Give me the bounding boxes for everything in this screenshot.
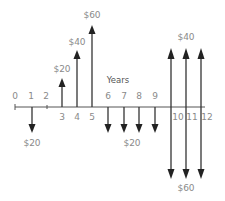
arrow-down-icon	[136, 124, 143, 133]
cash-flow-arrow-year-7-down	[121, 107, 128, 133]
cash-flow-arrow-year-3-up	[59, 78, 66, 107]
year-label-10: 10	[172, 112, 184, 122]
arrow-up-icon	[74, 50, 81, 59]
arrow-down-icon	[198, 169, 205, 179]
arrow-down-icon	[168, 169, 175, 179]
cash-flow-arrow-year-5-up	[89, 25, 96, 107]
amount-label-year-5: $60	[83, 10, 100, 20]
year-label-1: 1	[28, 91, 34, 101]
cash-flow-diagram: 0 1 2 3 4 5 6 7 8 9 10 11 12 Years $20 $…	[0, 0, 225, 201]
arrow-up-icon	[59, 78, 66, 87]
year-label-11: 11	[186, 112, 197, 122]
cash-flow-arrow-year-8-down	[136, 107, 143, 133]
amount-label-years-10-12-down: $60	[177, 183, 194, 193]
arrow-down-icon	[152, 124, 159, 133]
amount-label-years-10-12-up: $40	[177, 32, 194, 42]
arrow-up-icon	[168, 48, 175, 59]
arrow-up-icon	[198, 48, 205, 59]
axis-title-years: Years	[106, 75, 130, 85]
cash-flow-arrow-year-9-down	[152, 107, 159, 133]
year-label-3: 3	[59, 112, 65, 122]
cash-flow-arrow-year-6-down	[105, 107, 112, 133]
arrow-down-icon	[121, 124, 128, 133]
year-label-0: 0	[12, 91, 18, 101]
cash-flow-arrow-year-4-up	[74, 50, 81, 107]
amount-label-year-3: $20	[53, 64, 70, 74]
year-label-9: 9	[152, 91, 158, 101]
amount-label-years-6-9: $20	[123, 138, 140, 148]
amount-label-year-1: $20	[23, 138, 40, 148]
arrow-up-icon	[89, 25, 96, 34]
arrow-down-icon	[29, 124, 36, 133]
year-label-4: 4	[74, 112, 80, 122]
arrow-down-icon	[105, 124, 112, 133]
year-label-8: 8	[136, 91, 142, 101]
year-label-12: 12	[201, 112, 212, 122]
year-label-7: 7	[121, 91, 127, 101]
year-label-2: 2	[43, 91, 49, 101]
amount-label-year-4: $40	[68, 37, 85, 47]
year-label-6: 6	[105, 91, 111, 101]
time-axis	[15, 104, 205, 110]
arrow-down-icon	[183, 169, 190, 179]
arrow-up-icon	[183, 48, 190, 59]
cash-flow-arrow-year-1-down	[29, 107, 36, 133]
year-label-5: 5	[89, 112, 95, 122]
